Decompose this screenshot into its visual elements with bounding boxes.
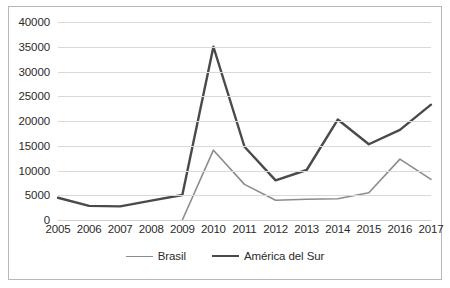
gridline-15000 [58,146,431,147]
gridline-35000 [58,47,431,48]
y-axis: 0500010000150002000025000300003500040000 [9,22,54,220]
legend-line-icon [126,256,153,257]
gridline-0 [58,220,431,221]
chart-container: 0500010000150002000025000300003500040000… [8,6,442,280]
x-axis-tick-label: 2006 [77,223,102,235]
legend-line-icon [212,255,239,257]
x-axis-tick-label: 2010 [201,223,226,235]
x-axis-tick-label: 2014 [325,223,350,235]
gridline-5000 [58,195,431,196]
plot-area [58,22,431,220]
gridline-25000 [58,96,431,97]
legend-label: América del Sur [244,250,324,262]
y-axis-tick-label: 30000 [19,66,50,78]
gridline-40000 [58,22,431,23]
chart-legend: BrasilAmérica del Sur [9,250,441,262]
x-axis-tick-label: 2009 [170,223,195,235]
y-axis-tick-label: 20000 [19,115,50,127]
x-axis: 2005200620072008200920102011201220132014… [58,223,431,243]
legend-entry[interactable]: América del Sur [212,250,324,262]
legend-entry[interactable]: Brasil [126,250,186,262]
chart-inner: 0500010000150002000025000300003500040000… [9,7,441,279]
gridline-10000 [58,171,431,172]
legend-label: Brasil [158,250,186,262]
y-axis-tick-label: 15000 [19,140,50,152]
y-axis-tick-label: 25000 [19,90,50,102]
y-axis-tick-label: 10000 [19,165,50,177]
x-axis-tick-label: 2016 [388,223,413,235]
x-axis-tick-label: 2017 [419,223,444,235]
y-axis-tick-label: 5000 [25,189,50,201]
series-line [182,150,431,220]
x-axis-tick-label: 2012 [263,223,288,235]
y-axis-tick-label: 35000 [19,41,50,53]
gridline-20000 [58,121,431,122]
gridline-30000 [58,72,431,73]
y-axis-tick-label: 40000 [19,16,50,28]
x-axis-tick-label: 2015 [356,223,381,235]
x-axis-tick-label: 2011 [233,223,257,235]
x-axis-tick-label: 2007 [108,223,133,235]
x-axis-tick-label: 2005 [46,223,71,235]
x-axis-tick-label: 2013 [294,223,319,235]
x-axis-tick-label: 2008 [139,223,164,235]
